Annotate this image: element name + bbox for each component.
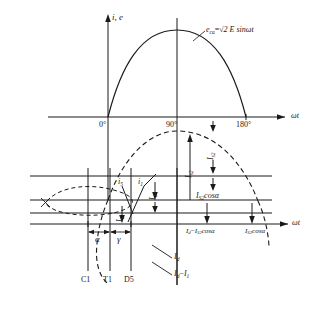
device-label-t1: T1 xyxy=(103,276,112,284)
arrow-is2-up-head xyxy=(187,134,193,142)
label-i5: i5 xyxy=(118,178,123,187)
label-id-minus-is2-cos-alpha: Id−IS2cosα xyxy=(186,228,215,236)
sine-formula-label: eca=√2 E sinωt xyxy=(206,26,254,35)
label-i1: i1 xyxy=(138,178,143,187)
label-id-vertical-base: I xyxy=(148,197,157,200)
label-id-left-base: I xyxy=(115,219,124,222)
label-id-minus-i1-leader: Id−I1 xyxy=(174,270,189,279)
label-id-vertical-sub: d xyxy=(152,195,158,198)
arrow-is2-down-head xyxy=(210,125,216,132)
label-is2-vertical-base: I xyxy=(206,157,215,160)
label-id-leader-sub: d xyxy=(177,256,180,262)
alpha-arrow-right xyxy=(104,230,110,234)
arrow-id-lower-head xyxy=(152,206,158,213)
top-axis-arrowhead xyxy=(277,114,285,120)
label-is2-cos-rest: cosα xyxy=(204,191,219,200)
tick-label-0deg: 0° xyxy=(99,121,106,129)
label-id-vertical: Id xyxy=(149,195,158,200)
bottom-axis-arrowhead xyxy=(280,221,288,227)
leader-id-minus-i1 xyxy=(152,262,172,275)
waveform-figure: i, e ωt ωt 0° 90° 180° eca=√2 E sinωt i5… xyxy=(0,0,313,318)
gamma-arrow-right xyxy=(125,230,131,234)
leader-id xyxy=(152,245,172,258)
label-is2r-rest: cosα xyxy=(252,227,265,235)
arrow-id-minus-is2-head xyxy=(204,216,210,224)
label-idm-rest: cosα xyxy=(202,227,215,235)
label-is2-mid-vertical: Is2 xyxy=(185,170,194,178)
gamma-arrow-left xyxy=(110,230,116,234)
bottom-horizontal-axis-label: ωt xyxy=(292,219,300,227)
label-is2-cos-alpha-right: IS2cosα xyxy=(245,228,265,236)
current-trace-i1 xyxy=(128,186,144,222)
label-idi1-sub2: 1 xyxy=(187,273,190,279)
commutation-loop-dashed xyxy=(46,186,132,215)
label-id-left-sub: d xyxy=(119,217,125,220)
top-vertical-axis-label: i, e xyxy=(112,13,123,22)
arrow-is2-down2-head xyxy=(210,167,216,174)
label-is2-cos-alpha: IS2cosα xyxy=(196,192,219,201)
label-id-leader: Id xyxy=(174,253,179,262)
alpha-arrow-left xyxy=(88,230,94,234)
diagram-canvas xyxy=(0,0,313,318)
device-label-c1: C1 xyxy=(81,276,90,284)
label-is2-vertical-sub: s2 xyxy=(210,152,216,157)
tick-label-90deg: 90° xyxy=(166,121,177,129)
top-horizontal-axis-label: ωt xyxy=(291,112,299,120)
tick-label-180deg: 180° xyxy=(236,121,251,129)
label-is2-mid-base: I xyxy=(184,175,193,178)
label-is2-vertical: Is2 xyxy=(207,152,216,160)
label-i5-sub: 5 xyxy=(120,181,123,187)
formula-leader-line xyxy=(193,31,205,41)
label-alpha: α xyxy=(95,235,100,244)
arrow-is2-down3-head xyxy=(210,184,216,191)
device-label-d5: D5 xyxy=(124,276,134,284)
label-i1-sub: 1 xyxy=(140,181,143,187)
label-gamma: γ xyxy=(117,235,121,244)
label-id-left-vertical: Id xyxy=(116,217,125,222)
formula-rhs: √2 E sinωt xyxy=(219,25,253,34)
top-vertical-axis-arrowhead xyxy=(105,14,111,22)
arrow-is2cos-right-head xyxy=(249,216,255,224)
label-is2-mid-sub: s2 xyxy=(188,170,194,175)
